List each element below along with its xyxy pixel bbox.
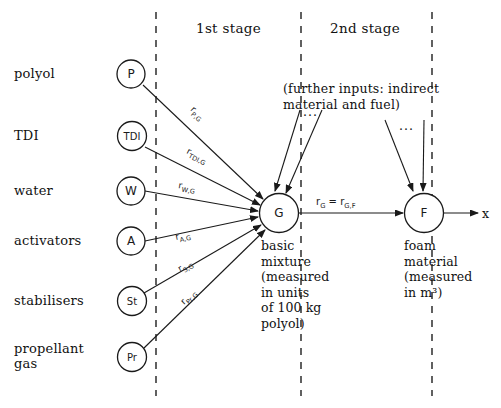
stage-label-2: 2nd stage	[330, 20, 400, 36]
row-label-stabilisers: stabilisers	[14, 293, 84, 308]
row-label-propellant: propellant gas	[14, 341, 84, 371]
edge-polyol-to-g	[143, 85, 263, 199]
edge-further-f-b	[423, 120, 424, 191]
node-letter-polyol: P	[127, 67, 134, 81]
row-label-water: water	[14, 183, 53, 198]
rate-sub-r-w-g: W,G	[181, 186, 196, 196]
main-rate-eq: = r	[325, 196, 344, 207]
stage-label-1: 1st stage	[196, 20, 261, 36]
row-label-activators: activators	[14, 233, 81, 248]
rate-label-r-s-g: rS,G	[176, 258, 195, 277]
node-letter-water: W	[125, 184, 137, 198]
edge-further-g-b	[286, 110, 322, 193]
edge-stabilisers-to-g	[144, 225, 261, 293]
ellipsis-g: ...	[303, 104, 318, 119]
rate-sub-r-pr-g: Pr,G	[185, 291, 200, 306]
row-label-polyol: polyol	[14, 66, 55, 81]
node-letter-activators: A	[127, 234, 136, 248]
caption-g-node: basic mixture (measured in units of 100 …	[261, 238, 329, 331]
rate-label-r-tdi-g: rTDI,G	[184, 146, 209, 167]
node-letter-stabilisers: St	[127, 296, 137, 307]
rate-sub-r-tdi-g: TDI,G	[186, 152, 207, 168]
edge-water-to-g	[145, 191, 258, 211]
main-rate-sub-2: G,F	[344, 202, 355, 210]
rate-labels: rP,G rTDI,G rW,G rA,G rS,G	[174, 104, 209, 308]
input-edges	[143, 85, 265, 348]
process-flow-diagram: P TDI W A St Pr G F rP,G rTDI,G	[0, 0, 501, 408]
node-letter-propellant: Pr	[127, 352, 138, 363]
rate-label-r-w-g: rW,G	[177, 180, 196, 196]
ellipsis-f: ...	[399, 118, 414, 133]
input-nodes	[117, 60, 147, 372]
caption-f-node: foam material (measured in m³)	[404, 238, 472, 300]
rate-label-r-p-g: rP,G	[187, 104, 207, 124]
edge-propellant-to-g	[144, 230, 265, 348]
output-axis-label: x	[482, 206, 489, 221]
main-rate-label: rG = rG,F	[316, 196, 356, 210]
rate-label-r-pr-g: rPr,G	[178, 287, 199, 308]
further-input-edges-g	[275, 110, 322, 193]
edge-tdi-to-g	[145, 147, 260, 205]
node-letter-tdi: TDI	[123, 131, 141, 142]
edge-activators-to-g	[145, 217, 258, 241]
node-letter-f: F	[421, 206, 428, 220]
node-letter-g: G	[274, 206, 283, 220]
rate-sub-r-a-g: A,G	[179, 234, 192, 244]
row-label-tdi: TDI	[14, 128, 39, 143]
edge-further-g-a	[275, 110, 300, 191]
